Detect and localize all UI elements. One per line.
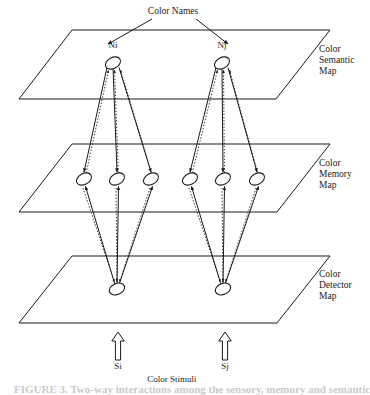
plane-label-line: Map — [319, 180, 337, 190]
connection-links — [83, 68, 259, 285]
plane-group-semantic: ColorSemanticMap — [19, 30, 354, 99]
memory-node-m3 — [141, 170, 160, 187]
plane-outline-detector — [19, 256, 330, 323]
color-names-arrow-2 — [196, 19, 228, 44]
memory-node-m6 — [247, 170, 266, 187]
memory-node-m4 — [180, 170, 199, 187]
plane-label-semantic: ColorSemanticMap — [319, 44, 354, 76]
plane-label-line: Semantic — [319, 55, 354, 65]
link-memory-to-detector-2-1 — [189, 188, 220, 282]
plane-label-line: Memory — [319, 169, 352, 179]
plane-label-detector: ColorDetectorMap — [319, 269, 353, 301]
link-memory-to-semantic-2-1 — [192, 70, 218, 176]
link-memory-to-semantic-1-3 — [121, 70, 153, 176]
stimulus-arrow-Sj — [219, 332, 231, 360]
link-memory-to-detector-1-3 — [120, 188, 150, 282]
plane-outline-memory — [19, 144, 330, 212]
color-stimuli-label: Color Stimuli — [147, 374, 197, 384]
link-semantic-to-memory-1-1 — [84, 68, 107, 173]
color-names-pointers — [108, 19, 228, 44]
memory-node-m5 — [213, 170, 232, 187]
figure-caption-cutoff: FIGURE 3. Two-way interactions among the… — [0, 385, 370, 395]
detector-node-d1 — [108, 281, 127, 297]
color-names-arrow-1 — [108, 19, 152, 44]
memory-node-m1 — [74, 170, 93, 187]
plane-label-line: Color — [319, 158, 341, 168]
plane-group-detector: ColorDetectorMap — [19, 256, 353, 323]
color-names-label: Color Names — [148, 6, 199, 16]
plane-label-line: Color — [319, 269, 341, 279]
color-map-diagram: ColorSemanticMap ColorMemoryMap ColorDet… — [0, 0, 370, 395]
stimulus-label-Si: Si — [114, 361, 122, 371]
link-detector-to-memory-2-3 — [225, 187, 258, 285]
link-semantic-to-memory-1-3 — [119, 68, 151, 173]
memory-node-m2 — [107, 170, 126, 187]
stimulus-arrows: SiSj — [112, 332, 231, 371]
link-memory-to-detector-1-1 — [83, 188, 114, 282]
link-semantic-to-memory-2-1 — [190, 68, 216, 173]
link-memory-to-detector-2-3 — [226, 188, 256, 282]
figure-root: ColorSemanticMap ColorMemoryMap ColorDet… — [0, 0, 370, 395]
detector-node-d2 — [214, 281, 233, 297]
link-detector-to-memory-2-1 — [192, 187, 221, 285]
plane-label-line: Map — [319, 66, 337, 76]
stimulus-label-Sj: Sj — [221, 361, 229, 371]
plane-label-memory: ColorMemoryMap — [319, 158, 352, 190]
figure-caption-text: FIGURE 3. Two-way interactions among the… — [14, 385, 370, 395]
plane-label-line: Map — [319, 291, 337, 301]
link-memory-to-semantic-2-3 — [230, 70, 259, 176]
plane-label-line: Color — [319, 44, 341, 54]
link-semantic-to-memory-2-3 — [228, 68, 257, 173]
link-semantic-to-memory-2-2 — [222, 68, 223, 173]
link-memory-to-semantic-1-1 — [86, 70, 109, 176]
link-detector-to-memory-1-1 — [86, 187, 115, 285]
plane-outline-semantic — [19, 30, 330, 99]
stimulus-arrow-Si — [112, 332, 124, 360]
link-detector-to-memory-1-3 — [119, 187, 152, 285]
text-labels: Color Names Color Stimuli — [147, 6, 198, 384]
node-ellipses: NiNj — [74, 40, 266, 297]
plane-label-line: Detector — [319, 280, 353, 290]
link-memory-to-semantic-2-2 — [224, 70, 225, 176]
